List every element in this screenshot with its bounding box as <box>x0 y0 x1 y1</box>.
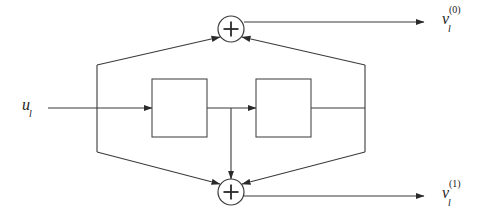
second-block <box>256 79 311 137</box>
first-block <box>152 79 207 137</box>
wire-right-tap-to-bottom-adder <box>242 152 365 184</box>
top-output-signal-label: vl(0) <box>442 9 464 31</box>
wire-right-tap-to-top-adder <box>242 37 365 65</box>
input-signal-label: ul <box>22 96 33 116</box>
diagram-canvas <box>0 0 478 223</box>
top-output-label-subscript: l <box>448 23 451 34</box>
input-label-subscript: l <box>29 108 32 119</box>
top-output-label-superscript: (0) <box>449 4 461 15</box>
block-diagram-figure: ul vl(0) vl(1) <box>0 0 478 223</box>
wire-left-tap-to-bottom-adder <box>97 152 220 184</box>
top-adder <box>218 16 244 42</box>
wire-left-tap-to-top-adder <box>97 37 220 65</box>
bottom-adder <box>218 179 244 205</box>
bottom-output-label-superscript: (1) <box>449 178 461 189</box>
bottom-output-signal-label: vl(1) <box>442 183 464 205</box>
bottom-output-label-subscript: l <box>448 197 451 208</box>
